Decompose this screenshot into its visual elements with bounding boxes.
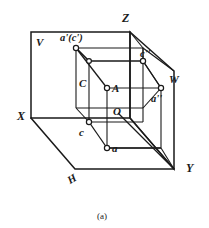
marker-c: [86, 119, 91, 124]
ray-c-to-a: [89, 122, 107, 148]
marker-A: [104, 85, 109, 90]
z-corner-to-cdoubleprime-top: [130, 32, 143, 48]
plane-label-w: W: [169, 74, 179, 85]
w-bottom-depth-edge: [130, 118, 174, 169]
marker-a-prime-c-prime: [73, 45, 78, 50]
marker-C-top-back: [87, 59, 92, 64]
point-label-C: C: [79, 78, 86, 89]
marker-a-double-prime: [158, 85, 163, 90]
figure-container: Z X Y V H W a'(c') c'' a'' C A O c a (a): [0, 0, 209, 228]
figure-caption: (a): [97, 212, 107, 221]
axis-label-z: Z: [122, 12, 129, 24]
point-label-O: O: [113, 106, 121, 117]
marker-a: [104, 145, 109, 150]
axis-label-y: Y: [186, 162, 193, 174]
projection-diagram-svg: [0, 0, 209, 228]
point-label-a-double-prime: a'': [151, 94, 162, 105]
w-plane-diag-upper: [143, 61, 161, 88]
plane-label-v: V: [36, 37, 43, 48]
point-label-A: A: [112, 83, 119, 94]
point-label-c-double-prime: c'': [140, 49, 151, 60]
point-label-c: c: [79, 127, 84, 138]
point-label-a-prime-c-prime: a'(c'): [60, 33, 83, 44]
h-w-intersection-diagonal: [118, 113, 174, 169]
axis-label-x: X: [17, 110, 25, 122]
point-label-a: a: [112, 143, 118, 154]
